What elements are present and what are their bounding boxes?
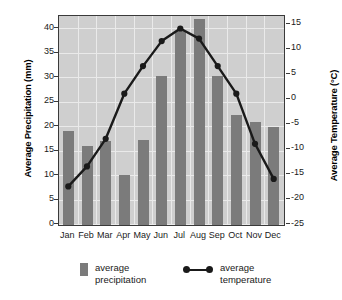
temperature-point-jul (177, 25, 183, 31)
temperature-line-marker-icon (183, 263, 213, 276)
temperature-point-feb (84, 163, 90, 169)
temperature-point-aug (196, 36, 202, 42)
temperature-point-sep (215, 63, 221, 69)
y-axis-title-right: Average Temperature (°C) (328, 36, 339, 216)
y-tickmark-right (286, 73, 290, 74)
chart-legend: average precipitation average temperatur… (58, 262, 308, 296)
temperature-point-oct (233, 91, 239, 97)
y-tick-left-0: 0 (34, 219, 54, 228)
precipitation-swatch-icon (80, 263, 88, 276)
y-axis-ticks-left: 0510152025303540 (34, 15, 54, 226)
y-tick-right--20: -20 (291, 193, 313, 202)
y-tickmark-right (286, 23, 290, 24)
y-tick-left-35: 35 (34, 47, 54, 56)
y-axis-tickmarks-right (285, 15, 290, 226)
temperature-polyline (68, 29, 273, 187)
temperature-point-nov (252, 141, 258, 147)
y-tick-left-10: 10 (34, 170, 54, 179)
x-axis-labels: JanFebMarAprMayJunJulAugSepOctNovDec (58, 230, 285, 244)
temperature-point-apr (121, 91, 127, 97)
legend-item-temperature: average temperature (183, 262, 271, 286)
y-tickmark-right (286, 148, 290, 149)
y-tickmark-right (286, 48, 290, 49)
y-tick-right--10: -10 (291, 143, 313, 152)
y-tick-left-20: 20 (34, 121, 54, 130)
legend-label-temperature: average temperature (220, 262, 271, 286)
climate-chart: Average Precipitation (mm) Average Tempe… (0, 0, 342, 300)
y-tick-right--15: -15 (291, 168, 313, 177)
temperature-point-may (140, 63, 146, 69)
y-tick-left-25: 25 (34, 96, 54, 105)
y-tickmark-right (286, 123, 290, 124)
y-tickmark-right (286, 223, 290, 224)
y-tick-right-5: 5 (291, 68, 313, 77)
y-tick-right--25: -25 (291, 219, 313, 228)
plot-area (58, 15, 285, 226)
y-tick-left-30: 30 (34, 72, 54, 81)
y-axis-title-left: Average Precipitation (mm) (22, 29, 33, 209)
y-tick-right-10: 10 (291, 43, 313, 52)
y-tickmark-right (286, 173, 290, 174)
y-tick-left-40: 40 (34, 23, 54, 32)
y-tick-right-0: 0 (291, 93, 313, 102)
y-axis-ticks-right: -25-20-15-10-5051015 (291, 15, 313, 226)
temperature-point-mar (103, 136, 109, 142)
legend-item-precipitation: average precipitation (80, 262, 146, 286)
temperature-point-jun (159, 38, 165, 44)
legend-label-precipitation: average precipitation (95, 262, 146, 286)
temperature-point-dec (271, 176, 277, 182)
x-tick-dec: Dec (260, 230, 286, 240)
y-tick-right--5: -5 (291, 118, 313, 127)
y-tick-left-15: 15 (34, 145, 54, 154)
temperature-line (59, 16, 283, 224)
y-tick-right-15: 15 (291, 18, 313, 27)
y-tick-left-5: 5 (34, 194, 54, 203)
temperature-point-jan (65, 183, 71, 189)
y-tickmark-right (286, 98, 290, 99)
y-tickmark-right (286, 198, 290, 199)
